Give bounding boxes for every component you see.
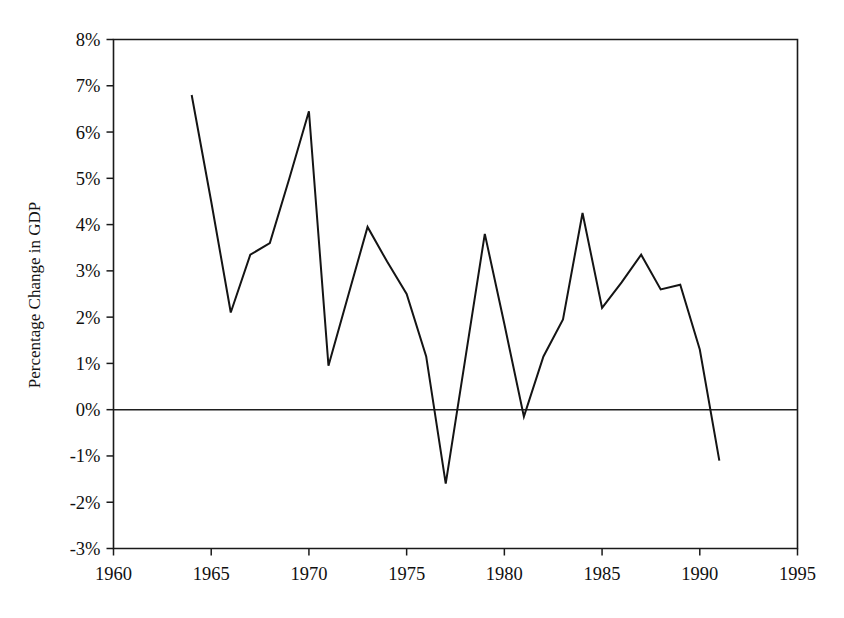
y-axis-tick-label: 1% [76,354,101,374]
data-series-line [192,95,720,484]
y-axis-tick-label: -1% [70,446,101,466]
y-axis-tick-label: 6% [76,123,101,143]
y-axis-tick-label: 5% [76,169,101,189]
y-axis-tick-label: 0% [76,400,101,420]
y-axis-title: Percentage Change in GDP [25,202,44,388]
y-axis-tick-labels: -3%-2%-1%0%1%2%3%4%5%6%7%8% [70,30,101,559]
x-axis-tick-label: 1995 [779,564,816,584]
x-axis-tick-label: 1970 [290,564,327,584]
y-axis-tick-label: 2% [76,308,101,328]
y-axis-tick-label: 7% [76,76,101,96]
axis-tick-marks [107,40,798,556]
y-axis-tick-label: -3% [70,539,101,559]
gdp-percentage-change-chart: Percentage Change in GDP -3%-2%-1%0%1%2%… [0,0,844,618]
y-axis-tick-label: 3% [76,261,101,281]
chart-canvas: Percentage Change in GDP -3%-2%-1%0%1%2%… [0,0,844,618]
y-axis-tick-label: 4% [76,215,101,235]
x-axis-tick-label: 1975 [388,564,425,584]
x-axis-tick-labels: 19601965197019751980198519901995 [95,564,816,584]
plot-frame [114,40,798,549]
x-axis-tick-label: 1985 [584,564,621,584]
y-axis-title-label: Percentage Change in GDP [25,202,44,388]
x-axis-tick-label: 1960 [95,564,132,584]
y-axis-tick-label: 8% [76,30,101,50]
y-axis-tick-label: -2% [70,493,101,513]
x-axis-tick-label: 1990 [681,564,718,584]
x-axis-tick-label: 1965 [193,564,230,584]
x-axis-tick-label: 1980 [486,564,523,584]
